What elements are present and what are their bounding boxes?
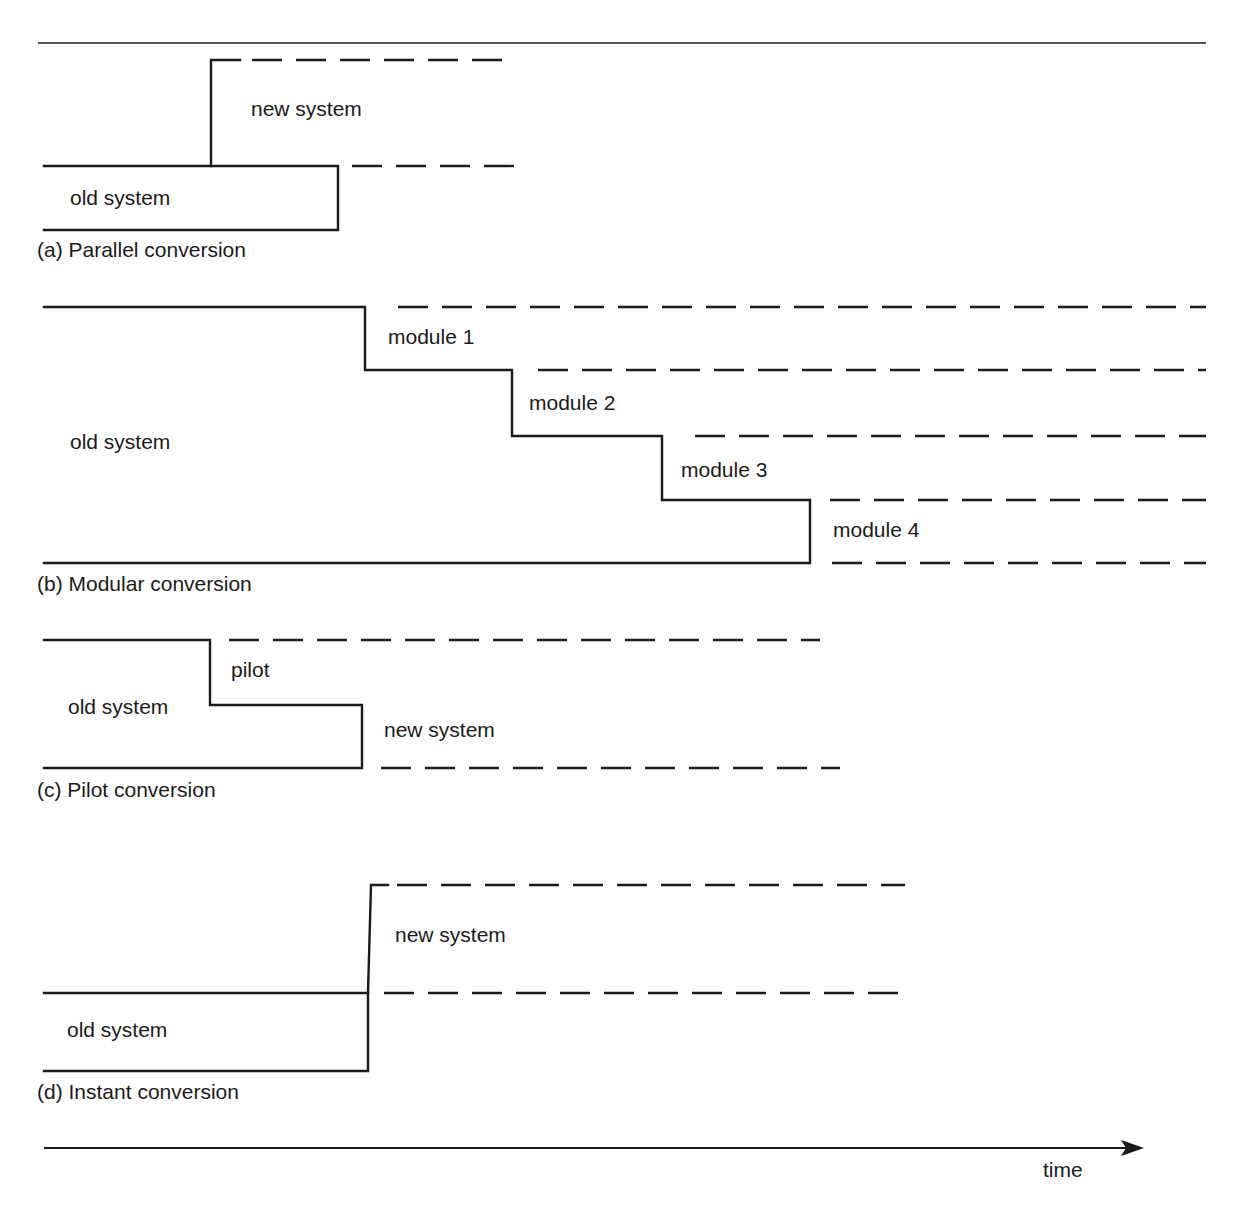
pilot-label: pilot	[231, 658, 270, 681]
time-axis-label: time	[1043, 1158, 1083, 1181]
panel-modular-conversion: old system module 1 module 2 module 3 mo…	[37, 307, 1206, 595]
module-2-label: module 2	[529, 391, 615, 414]
old-system-label: old system	[70, 430, 170, 453]
new-system-label: new system	[384, 718, 495, 741]
panel-instant-conversion: new system old system (d) Instant conver…	[37, 885, 905, 1103]
panel-caption: (b) Modular conversion	[37, 572, 252, 595]
panel-parallel-conversion: new system old system (a) Parallel conve…	[37, 60, 515, 261]
new-system-start	[211, 60, 240, 166]
conversion-strategies-diagram: new system old system (a) Parallel conve…	[0, 0, 1241, 1208]
panel-caption: (d) Instant conversion	[37, 1080, 239, 1103]
new-system-label: new system	[251, 97, 362, 120]
new-system-start	[368, 885, 388, 993]
module-3-label: module 3	[681, 458, 767, 481]
old-system-label: old system	[68, 695, 168, 718]
panel-caption: (c) Pilot conversion	[37, 778, 216, 801]
old-system-label: old system	[67, 1018, 167, 1041]
panel-pilot-conversion: old system pilot new system (c) Pilot co…	[37, 640, 840, 801]
time-axis: time	[44, 1140, 1144, 1181]
module-1-label: module 1	[388, 325, 474, 348]
panel-caption: (a) Parallel conversion	[37, 238, 246, 261]
module-4-label: module 4	[833, 518, 920, 541]
old-system-label: old system	[70, 186, 170, 209]
new-system-label: new system	[395, 923, 506, 946]
